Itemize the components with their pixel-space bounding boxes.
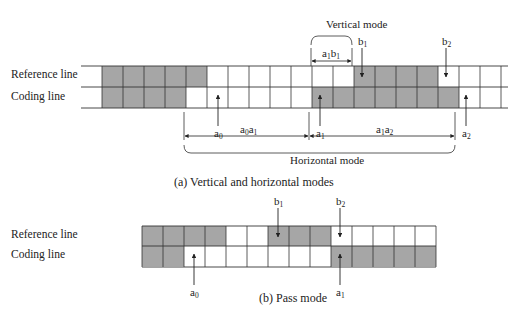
coding-cell: [186, 87, 207, 108]
coding-cell: [333, 87, 354, 108]
coding-cell: [373, 246, 394, 266]
reference-cell: [354, 66, 375, 87]
a2-label: a2: [462, 127, 471, 141]
coding-cell: [310, 246, 331, 266]
reference-cell: [333, 66, 354, 87]
b1-label: b1: [274, 195, 284, 209]
coding-cell: [270, 87, 291, 108]
grid-a: a0a1a2b1b2: [81, 35, 508, 141]
grid-b: a0a1b1b2: [142, 195, 436, 300]
caption-b: (b) Pass mode: [259, 291, 327, 305]
horizontal-mode-label: Horizontal mode: [290, 154, 364, 166]
reference-cell: [291, 66, 312, 87]
coding-cell: [123, 87, 144, 108]
vertical-mode-label: Vertical mode: [326, 18, 388, 30]
coding-cell: [438, 87, 459, 108]
reference-cell: [331, 226, 352, 246]
reference-cell: [438, 66, 459, 87]
a0a1-label: a0a1: [240, 123, 258, 137]
coding-cell: [291, 87, 312, 108]
coding-cell: [249, 87, 270, 108]
reference-cell: [375, 66, 396, 87]
reference-cell: [312, 66, 333, 87]
figure-a-vertical-horizontal: Reference line Coding line a0a1a2b1b2 Ve…: [11, 18, 508, 189]
coding-cell: [331, 246, 352, 266]
a1a2-label: a1a2: [376, 123, 394, 137]
b2-label: b2: [442, 35, 452, 49]
caption-a: (a) Vertical and horizontal modes: [174, 175, 334, 189]
reference-cell: [249, 66, 270, 87]
mmr-coding-modes-diagram: Reference line Coding line a0a1a2b1b2 Ve…: [0, 0, 510, 315]
reference-cell: [480, 66, 501, 87]
coding-cell: [417, 87, 438, 108]
reference-line-label-b: Reference line: [11, 228, 78, 240]
coding-cell: [375, 87, 396, 108]
coding-cell: [142, 246, 163, 266]
reference-cell: [163, 226, 184, 246]
coding-cell: [207, 87, 228, 108]
coding-cell: [184, 246, 205, 266]
horizontal-mode-brace: [184, 145, 455, 153]
reference-cell: [373, 226, 394, 246]
coding-cell: [163, 246, 184, 266]
reference-cell: [165, 66, 186, 87]
coding-cell: [459, 87, 480, 108]
vertical-mode-brace: [311, 36, 352, 45]
reference-cell: [394, 226, 415, 246]
reference-cell: [415, 226, 436, 246]
a1b1-label: a1b1: [322, 47, 340, 61]
reference-cell: [459, 66, 480, 87]
a1-label: a1: [336, 286, 345, 300]
reference-cell: [184, 226, 205, 246]
reference-cell: [123, 66, 144, 87]
reference-cell: [205, 226, 226, 246]
coding-cell: [268, 246, 289, 266]
coding-cell: [396, 87, 417, 108]
reference-cell: [228, 66, 249, 87]
coding-cell: [205, 246, 226, 266]
reference-cell: [417, 66, 438, 87]
coding-cell: [480, 87, 501, 108]
reference-cell: [352, 226, 373, 246]
coding-cell: [415, 246, 436, 266]
coding-cell: [394, 246, 415, 266]
reference-cell: [268, 226, 289, 246]
reference-cell: [310, 226, 331, 246]
coding-cell: [144, 87, 165, 108]
reference-cell: [270, 66, 291, 87]
coding-cell: [352, 246, 373, 266]
reference-line-label-a: Reference line: [11, 68, 78, 80]
coding-cell: [165, 87, 186, 108]
b1-label: b1: [358, 35, 368, 49]
coding-cell: [289, 246, 310, 266]
figure-b-pass-mode: Reference line Coding line a0a1b1b2 (b) …: [11, 195, 436, 305]
b2-label: b2: [336, 195, 346, 209]
coding-cell: [102, 87, 123, 108]
coding-cell: [312, 87, 333, 108]
coding-cell: [354, 87, 375, 108]
reference-cell: [226, 226, 247, 246]
reference-cell: [144, 66, 165, 87]
reference-cell: [247, 226, 268, 246]
reference-cell: [396, 66, 417, 87]
coding-line-label-a: Coding line: [11, 90, 65, 103]
coding-cell: [226, 246, 247, 266]
reference-cell: [207, 66, 228, 87]
reference-cell: [142, 226, 163, 246]
coding-cell: [247, 246, 268, 266]
coding-line-label-b: Coding line: [11, 248, 65, 261]
a0-label: a0: [214, 127, 223, 141]
reference-cell: [102, 66, 123, 87]
a1-label: a1: [316, 127, 325, 141]
reference-cell: [289, 226, 310, 246]
a0-label: a0: [190, 286, 199, 300]
reference-cell: [186, 66, 207, 87]
coding-cell: [228, 87, 249, 108]
